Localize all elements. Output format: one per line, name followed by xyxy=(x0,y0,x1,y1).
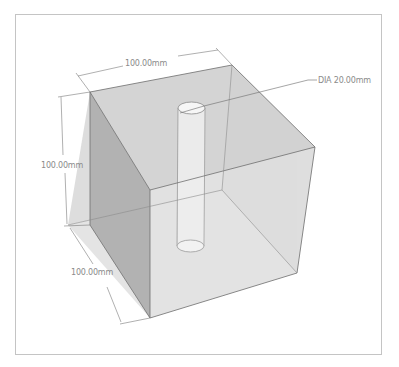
model-viewport: 100.00mm 100.00mm 100.00mm DIA 20.00mm xyxy=(0,0,399,367)
height-label: 100.00mm xyxy=(41,161,83,170)
hole-diameter-label: DIA 20.00mm xyxy=(318,76,371,85)
depth-label: 100.00mm xyxy=(71,268,113,277)
cylinder-bottom-ellipse xyxy=(177,240,204,252)
width-label: 100.00mm xyxy=(125,59,167,68)
